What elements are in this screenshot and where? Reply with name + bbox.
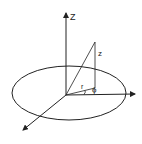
angle-label: ϕ — [92, 85, 97, 94]
cylindrical-coordinates-diagram: Z z r ϕ — [0, 0, 142, 144]
x-axis — [66, 94, 135, 95]
base-circle — [12, 66, 126, 120]
height-label: z — [98, 49, 102, 58]
radius-label: r — [81, 83, 84, 90]
z-axis-label: Z — [70, 12, 76, 22]
angle-arc — [84, 91, 85, 95]
